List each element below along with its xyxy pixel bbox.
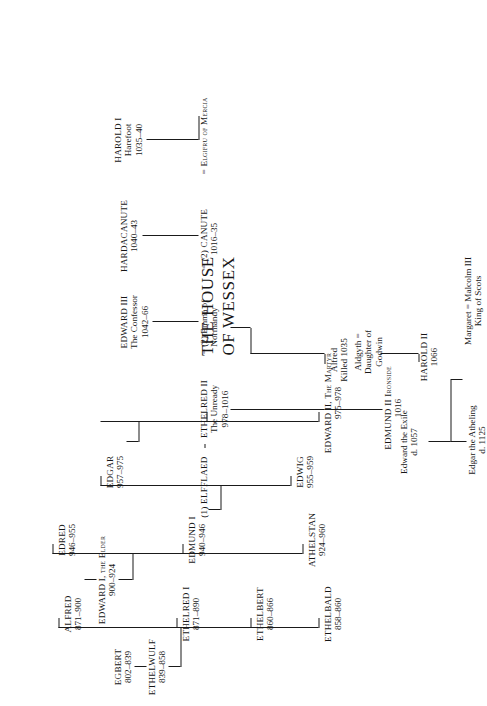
connector-edgar-atheling-tick [450, 441, 466, 442]
node-harold2-years: 1066 [428, 316, 438, 398]
connector-ethelbert-tick [250, 618, 251, 628]
node-emma: = (2) Emma of Normandy [198, 284, 219, 370]
node-canute: = (2) CANUTE 1016–35 [198, 196, 219, 282]
connector-alfred-down [84, 579, 96, 580]
node-edred: EDRED 946–955 [56, 504, 77, 576]
connector-gen5-stem [132, 554, 133, 580]
connector-emma-bus-v [250, 353, 324, 354]
node-alfred: ALFRED 871–900 [62, 578, 83, 650]
node-ethelred1-name: ETHELRED I [180, 578, 190, 650]
node-harold2: HAROLD II 1066 [418, 316, 439, 398]
node-ethelred1-years: 871–890 [190, 578, 200, 650]
node-edward-exile: Edward the Exile d. 1057 [398, 392, 419, 492]
connector-ethelwulf-down [168, 666, 180, 667]
connector-alfred-killed-tick [324, 354, 325, 364]
connector-harold2-aldgyth [380, 353, 418, 354]
node-edward-elder: EDWARD I, the Elder 900–924 [96, 524, 117, 636]
connector-emma-down [230, 327, 250, 328]
node-canute-years: 1016–35 [208, 196, 218, 282]
connector-exile-down [428, 441, 450, 442]
node-harold1-name: HAROLD I [112, 94, 122, 186]
node-harold1-sub: Harefoot [122, 94, 132, 186]
node-edwig-name: EDWIG [294, 436, 304, 508]
connector-gen6-spine [100, 485, 290, 486]
node-athelstan-years: 924–960 [316, 504, 326, 576]
node-elfflaed-name: (1) ELFFLAED [198, 446, 208, 528]
connector-gen7-stem [138, 422, 139, 442]
connector-exile-bus [450, 380, 451, 442]
node-edgar: EDGAR 957–975 [104, 436, 125, 508]
connector-edward3-up [152, 321, 198, 322]
connector-alfred-tick [58, 618, 59, 628]
node-egbert: EGBERT 802–839 [112, 634, 133, 700]
node-aldgyth: Aldgyth = Daughter of Godwin [352, 306, 383, 398]
node-ethelwulf-years: 839–858 [156, 634, 166, 700]
connector-edgar-tick [100, 476, 101, 486]
node-canute-name: = (2) CANUTE [198, 196, 208, 282]
node-edward3: EDWARD III The Confessor 1042–66 [118, 274, 149, 370]
connector-edgar-down [126, 441, 138, 442]
connector-athelstan-tick [302, 544, 303, 554]
connector-elfflaed-marriage [204, 444, 205, 448]
node-ethelred2: ETHELRED II The Unready 978–1016 [198, 370, 229, 448]
node-ethelbald-years: 858–860 [332, 578, 342, 650]
node-edward3-sub: The Confessor [128, 274, 138, 370]
node-alfred-years: 871–900 [72, 578, 82, 650]
node-ethelwulf: ETHELWULF 839–858 [146, 634, 167, 700]
node-athelstan-name: ATHELSTAN [306, 504, 316, 576]
connector-harold2-left [418, 354, 419, 362]
connector-ethelbald-tick [318, 618, 319, 628]
connector-emma-bus [250, 328, 251, 354]
connector-edward-elder-down [118, 579, 132, 580]
node-edward3-years: 1042–66 [139, 274, 149, 370]
node-emma-name: = (2) Emma of [198, 284, 208, 370]
node-ethelbald: ETHELBALD 858–860 [322, 578, 343, 650]
node-athelstan: ATHELSTAN 924–960 [306, 504, 327, 576]
connector-margaret-tick [450, 379, 462, 380]
node-aldgyth-name: Aldgyth = [352, 306, 362, 398]
node-ethelred2-years: 978–1016 [219, 370, 229, 448]
connector-egbert-down [134, 666, 146, 667]
node-edward3-name: EDWARD III [118, 274, 128, 370]
node-edred-years: 946–955 [66, 504, 76, 576]
node-ethelbert: ETHELBERT 860–866 [254, 578, 275, 650]
connector-edred-tick [52, 544, 53, 554]
node-elgifru: = Elgifru of Mercia [198, 76, 208, 196]
node-harold1-years: 1035–40 [133, 94, 143, 186]
node-hardacanute-years: 1040–43 [128, 190, 138, 282]
node-harold2-name: HAROLD II [418, 316, 428, 398]
connector-ethelred1-tick [176, 618, 177, 628]
node-edward-exile-name: Edward the Exile [398, 392, 408, 492]
node-ethelwulf-name: ETHELWULF [146, 634, 156, 700]
node-edward-exile-sub: d. 1057 [408, 392, 418, 492]
node-ethelred1: ETHELRED I 871–890 [180, 578, 201, 650]
node-edward-elder-name: EDWARD I, the Elder [96, 524, 106, 636]
node-edgar-years: 957–975 [114, 436, 124, 508]
node-harold1: HAROLD I Harefoot 1035–40 [112, 94, 143, 186]
node-edgar-atheling: Edgar the Atheling d. 1125 [466, 388, 487, 492]
node-edgar-name: EDGAR [104, 436, 114, 508]
node-edred-name: EDRED [56, 504, 66, 576]
node-alfred-killed-sub: Killed 1035 [338, 320, 348, 400]
node-egbert-name: EGBERT [112, 634, 122, 700]
node-edwig: EDWIG 955–959 [294, 436, 315, 508]
node-edgar-atheling-name: Edgar the Atheling [466, 388, 476, 492]
node-edward-elder-years: 900–924 [106, 524, 116, 636]
node-edwig-years: 955–959 [304, 436, 314, 508]
node-margaret-sub: King of Scots [472, 226, 482, 376]
connector-elgifru-bus [198, 116, 199, 140]
node-egbert-years: 802–839 [122, 634, 132, 700]
node-emma-sub: Normandy [208, 284, 218, 370]
connector-hardacanute-up [142, 235, 198, 236]
node-ethelred2-name: ETHELRED II [198, 370, 208, 448]
connector-edmund1-tick [182, 544, 183, 554]
node-hardacanute: HARDACANUTE 1040–43 [118, 190, 139, 282]
connector-gen5-spine [52, 553, 302, 554]
node-ethelbert-years: 860–866 [264, 578, 274, 650]
node-elgifru-name: = Elgifru of Mercia [198, 76, 208, 196]
connector-edmund1-down [208, 509, 220, 510]
node-alfred-killed: Alfred Killed 1035 [328, 320, 349, 400]
node-edmund1-name: EDMUND I [186, 504, 196, 576]
node-edmund2-name: EDMUND II Ironside [382, 360, 392, 456]
connector-edward2-tick [318, 412, 319, 422]
